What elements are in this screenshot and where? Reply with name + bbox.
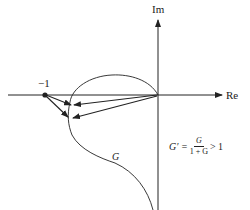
curve-g-label: G <box>112 152 119 162</box>
equation-fraction: G 1 + G <box>190 137 208 156</box>
equation: G′ = G 1 + G > 1 <box>169 137 223 156</box>
equation-rhs: > 1 <box>210 141 223 152</box>
x-axis-label: Re <box>226 90 238 101</box>
minus-one-label: −1 <box>38 78 50 89</box>
equation-lhs: G′ = <box>169 141 188 152</box>
nyquist-diagram <box>0 0 250 210</box>
vector-g-2 <box>73 96 157 118</box>
y-axis-label: Im <box>152 4 164 15</box>
vector-g-1 <box>74 95 157 105</box>
equation-denominator: 1 + G <box>190 147 208 156</box>
equation-numerator: G <box>194 137 204 147</box>
